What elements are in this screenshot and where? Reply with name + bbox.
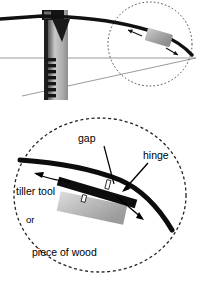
figure-limb-hinge-detail: gap hinge tiller tool or piece of wood <box>0 100 200 284</box>
label-hinge: hinge <box>143 149 169 161</box>
label-tiller-tool: tiller tool <box>16 185 55 197</box>
page-root: s for the bow. <box>0 0 200 284</box>
label-gap: gap <box>78 132 96 144</box>
label-or: or <box>26 214 34 225</box>
label-piece-of-wood: piece of wood <box>32 246 97 258</box>
figure-bow-on-tillering-tree <box>0 0 200 104</box>
